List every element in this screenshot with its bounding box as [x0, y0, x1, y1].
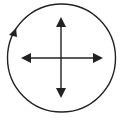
four-way-arrows-in-circle-icon	[0, 0, 129, 118]
rotation-move-diagram	[0, 0, 129, 118]
arrow-left-icon	[21, 53, 31, 63]
arrow-down-icon	[56, 88, 66, 98]
rotate-clockwise-icon	[9, 28, 17, 37]
arrow-right-icon	[93, 53, 103, 63]
arrow-up-icon	[56, 17, 66, 27]
